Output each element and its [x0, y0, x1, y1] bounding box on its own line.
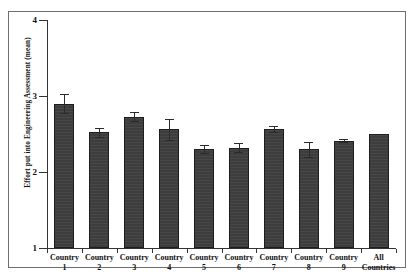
x-tick-label: Country 8	[291, 253, 326, 272]
x-tick-label: Country 1	[47, 253, 82, 272]
x-tick-label: Country 7	[256, 253, 291, 272]
x-tick-label: Country 4	[152, 253, 187, 272]
x-tick-mark	[396, 249, 397, 253]
error-bar-stem	[64, 94, 65, 114]
bar	[369, 134, 389, 248]
bar	[194, 149, 214, 248]
bar	[334, 141, 354, 248]
bar	[89, 132, 109, 248]
bar	[299, 149, 319, 248]
x-tick-label: Country 2	[82, 253, 117, 272]
bar	[124, 117, 144, 248]
bar	[264, 129, 284, 248]
y-tick-label: 2	[25, 168, 37, 177]
error-bar-cap-upper	[200, 145, 209, 146]
x-tick-label: Country 5	[187, 253, 222, 272]
error-bar-stem	[309, 142, 310, 157]
error-bar-cap-upper	[95, 128, 104, 129]
error-bar-cap-lower	[304, 157, 313, 158]
y-tick-label: 3	[25, 92, 37, 101]
error-bar-cap-upper	[165, 119, 174, 120]
y-tick-label: 1	[25, 244, 37, 253]
chart-figure: Effort put into Engineering Assessment (…	[8, 11, 406, 268]
error-bar-stem	[99, 128, 100, 137]
error-bar-cap-lower	[269, 132, 278, 133]
error-bar-cap-lower	[95, 137, 104, 138]
y-tick-mark	[39, 20, 47, 21]
error-bar-cap-upper	[339, 139, 348, 140]
error-bar-cap-lower	[130, 121, 139, 122]
bar	[54, 104, 74, 248]
x-tick-label: Country 6	[222, 253, 257, 272]
error-bar-stem	[169, 119, 170, 140]
error-bar-cap-upper	[269, 126, 278, 127]
error-bar-cap-upper	[304, 142, 313, 143]
error-bar-cap-lower	[165, 140, 174, 141]
y-tick-mark	[39, 172, 47, 173]
error-bar-cap-upper	[234, 143, 243, 144]
y-tick-mark	[39, 96, 47, 97]
x-tick-label: Country 3	[117, 253, 152, 272]
bar	[159, 129, 179, 248]
error-bar-cap-lower	[339, 142, 348, 143]
y-tick-mark	[39, 248, 47, 249]
error-bar-stem	[134, 112, 135, 121]
error-bar-cap-upper	[130, 112, 139, 113]
error-bar-cap-lower	[200, 153, 209, 154]
error-bar-cap-lower	[60, 113, 69, 114]
error-bar-cap-lower	[234, 152, 243, 153]
x-tick-label: Country 9	[326, 253, 361, 272]
error-bar-cap-upper	[60, 94, 69, 95]
y-tick-label: 4	[25, 16, 37, 25]
error-bar-stem	[239, 143, 240, 152]
error-bar-stem	[204, 145, 205, 153]
bar	[229, 148, 249, 248]
x-tick-label: All Countries	[361, 253, 396, 272]
y-axis-line	[47, 20, 48, 249]
